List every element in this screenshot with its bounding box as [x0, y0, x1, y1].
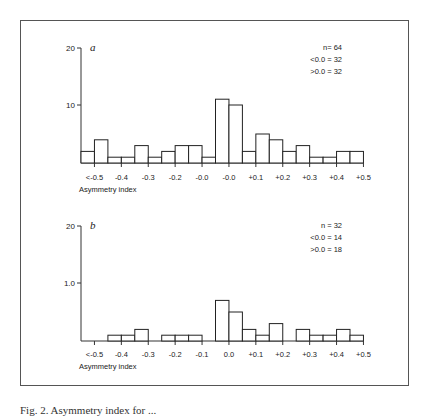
svg-text:-0.2: -0.2 [169, 173, 182, 182]
svg-text:10: 10 [66, 101, 75, 110]
svg-text:-0.2: -0.2 [169, 350, 182, 359]
svg-text:Asymmetry index: Asymmetry index [79, 185, 137, 194]
svg-text:Asymmetry index: Asymmetry index [79, 362, 137, 371]
svg-text:+0.3: +0.3 [302, 173, 317, 182]
svg-text:<0.0 = 32: <0.0 = 32 [310, 55, 342, 64]
svg-text:20: 20 [66, 222, 75, 231]
svg-text:<-0.5: <-0.5 [86, 173, 103, 182]
svg-text:-0.1: -0.1 [196, 350, 209, 359]
svg-text:+0.2: +0.2 [275, 173, 290, 182]
svg-text:-0.4: -0.4 [115, 173, 128, 182]
svg-text:a: a [90, 41, 96, 53]
svg-text:-0.4: -0.4 [115, 350, 128, 359]
svg-text:-0.0: -0.0 [222, 173, 235, 182]
figure-caption: Fig. 2. Asymmetry index for ... [20, 404, 156, 416]
svg-text:+0.2: +0.2 [275, 350, 290, 359]
svg-text:n= 64: n= 64 [323, 43, 342, 52]
svg-text:0.0: 0.0 [224, 350, 234, 359]
svg-text:<-0.5: <-0.5 [86, 350, 103, 359]
svg-text:+0.1: +0.1 [248, 350, 263, 359]
svg-text:>0.0 = 18: >0.0 = 18 [310, 245, 342, 254]
svg-text:1.0: 1.0 [64, 279, 76, 288]
svg-text:n = 32: n = 32 [321, 221, 342, 230]
svg-text:<0.0 = 14: <0.0 = 14 [310, 233, 342, 242]
svg-text:+0.5: +0.5 [356, 173, 371, 182]
svg-text:+0.4: +0.4 [329, 173, 344, 182]
svg-text:-0.0: -0.0 [196, 173, 209, 182]
svg-text:>0.0 = 32: >0.0 = 32 [310, 67, 342, 76]
svg-text:-0.3: -0.3 [142, 350, 155, 359]
svg-text:+0.3: +0.3 [302, 350, 317, 359]
svg-text:b: b [90, 219, 96, 231]
svg-text:+0.4: +0.4 [329, 350, 344, 359]
svg-text:+0.5: +0.5 [356, 350, 371, 359]
svg-text:+0.1: +0.1 [248, 173, 263, 182]
svg-text:20: 20 [66, 44, 75, 53]
svg-text:-0.3: -0.3 [142, 173, 155, 182]
